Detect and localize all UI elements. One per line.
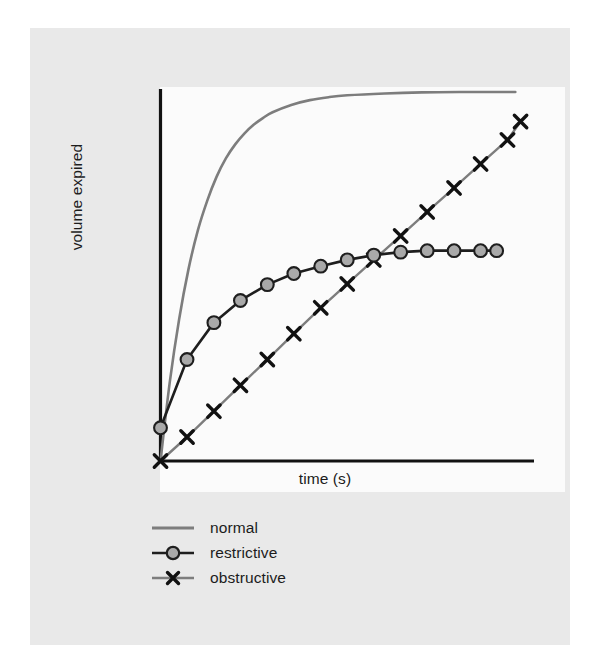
data-point-obstructive-11 bbox=[448, 182, 460, 194]
series-obstructive-line bbox=[154, 115, 526, 467]
data-point-restrictive-10 bbox=[421, 244, 434, 257]
data-point-obstructive-1 bbox=[181, 431, 193, 443]
data-point-obstructive-10 bbox=[421, 206, 433, 218]
legend-item-restrictive[interactable]: restrictive bbox=[150, 540, 410, 565]
data-point-restrictive-11 bbox=[448, 244, 461, 257]
data-point-obstructive-14 bbox=[514, 115, 526, 127]
legend-key-obstructive-x-icon bbox=[150, 567, 204, 589]
legend-key-normal-line-icon bbox=[150, 517, 204, 539]
series-path-restrictive bbox=[161, 251, 497, 428]
data-point-restrictive-9 bbox=[394, 246, 407, 259]
data-point-obstructive-6 bbox=[315, 302, 327, 314]
data-point-obstructive-13 bbox=[501, 134, 513, 146]
legend-item-normal[interactable]: normal bbox=[150, 515, 410, 540]
y-axis-title: volume expired bbox=[68, 117, 86, 277]
data-point-restrictive-1 bbox=[181, 353, 194, 366]
data-point-restrictive-8 bbox=[367, 249, 380, 262]
data-point-restrictive-5 bbox=[287, 267, 300, 280]
legend-label-normal: normal bbox=[210, 519, 258, 537]
data-point-obstructive-3 bbox=[234, 379, 246, 391]
data-point-restrictive-13 bbox=[490, 244, 503, 257]
data-point-obstructive-2 bbox=[208, 405, 220, 417]
data-point-obstructive-9 bbox=[394, 230, 406, 242]
legend-label-obstructive: obstructive bbox=[210, 569, 286, 587]
data-point-restrictive-0 bbox=[154, 421, 167, 434]
data-point-restrictive-6 bbox=[314, 260, 327, 273]
data-point-obstructive-5 bbox=[288, 328, 300, 340]
figure-panel: volume expired time (s) normal restricti… bbox=[30, 28, 570, 645]
data-point-restrictive-7 bbox=[341, 253, 354, 266]
legend-key-restrictive-circle-icon bbox=[150, 542, 204, 564]
data-point-obstructive-7 bbox=[341, 278, 353, 290]
data-point-restrictive-12 bbox=[474, 244, 487, 257]
data-point-restrictive-4 bbox=[261, 278, 274, 291]
x-axis-title: time (s) bbox=[240, 470, 410, 488]
data-point-restrictive-2 bbox=[208, 316, 221, 329]
series-normal-line bbox=[161, 92, 516, 461]
data-point-restrictive-3 bbox=[234, 294, 247, 307]
data-point-obstructive-12 bbox=[474, 158, 486, 170]
legend-label-restrictive: restrictive bbox=[210, 544, 277, 562]
data-point-obstructive-4 bbox=[261, 353, 273, 365]
chart-legend: normal restrictive obstructive bbox=[150, 515, 410, 590]
legend-item-obstructive[interactable]: obstructive bbox=[150, 565, 410, 590]
series-path-normal bbox=[161, 92, 516, 461]
